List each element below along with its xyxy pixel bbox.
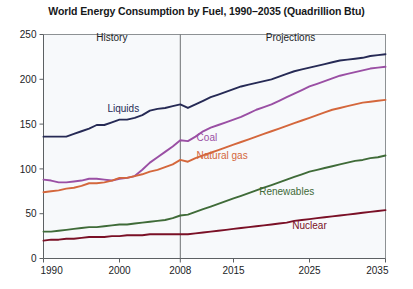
line-chart: 050100150200250199020002008201520252035H… (0, 0, 413, 289)
y-tick-label: 50 (25, 208, 37, 219)
chart-container: World Energy Consumption by Fuel, 1990–2… (0, 0, 413, 289)
x-tick-label: 2025 (298, 265, 321, 276)
x-tick-label: 2015 (222, 265, 245, 276)
plot-background (44, 35, 386, 259)
x-tick-label: 2008 (169, 265, 192, 276)
y-tick-label: 150 (20, 119, 37, 130)
series-label-coal: Coal (197, 132, 218, 143)
series-label-renewables: Renewables (259, 186, 314, 197)
x-tick-label: 2035 (366, 265, 389, 276)
period-label-projections: Projections (266, 32, 315, 43)
y-tick-label: 250 (20, 29, 37, 40)
y-tick-label: 200 (20, 74, 37, 85)
y-tick-label: 100 (20, 164, 37, 175)
period-label-history: History (96, 32, 127, 43)
y-tick-label: 0 (31, 253, 37, 264)
x-tick-label: 2000 (108, 265, 131, 276)
series-label-natural-gas: Natural gas (197, 150, 248, 161)
x-tick-label: 1990 (41, 265, 64, 276)
series-label-nuclear: Nuclear (292, 220, 327, 231)
series-label-liquids: Liquids (107, 103, 139, 114)
